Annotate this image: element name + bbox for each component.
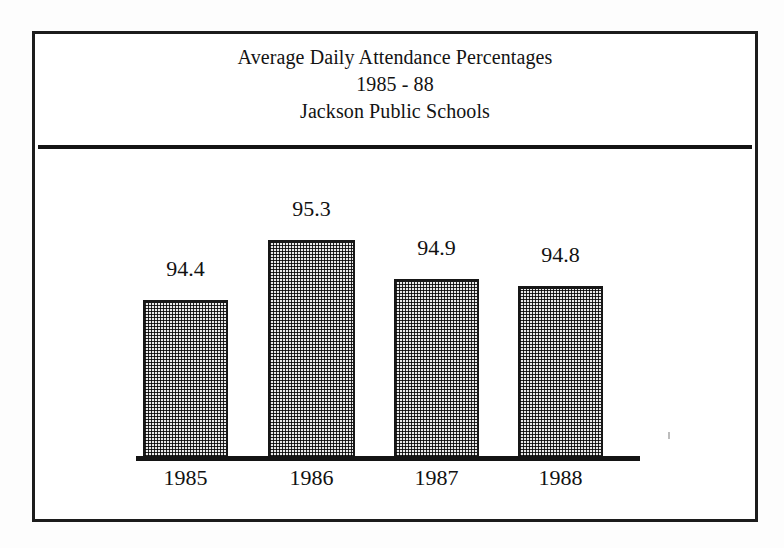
- plot-area: 94.4198595.3198694.9198794.81988: [0, 0, 784, 548]
- bar-1987: [394, 279, 479, 458]
- chart-page: Average Daily Attendance Percentages 198…: [0, 0, 784, 548]
- scan-speck: [668, 432, 670, 439]
- value-label-1988: 94.8: [518, 244, 603, 266]
- bar-1988: [518, 286, 603, 458]
- bar-1986: [268, 240, 355, 458]
- value-label-1986: 95.3: [268, 198, 355, 220]
- category-label-1988: 1988: [518, 466, 603, 490]
- value-label-1987: 94.9: [394, 237, 479, 259]
- bar-1985: [143, 300, 228, 458]
- category-label-1986: 1986: [268, 466, 355, 490]
- category-label-1985: 1985: [143, 466, 228, 490]
- category-label-1987: 1987: [394, 466, 479, 490]
- x-axis-baseline: [136, 456, 640, 461]
- value-label-1985: 94.4: [143, 258, 228, 280]
